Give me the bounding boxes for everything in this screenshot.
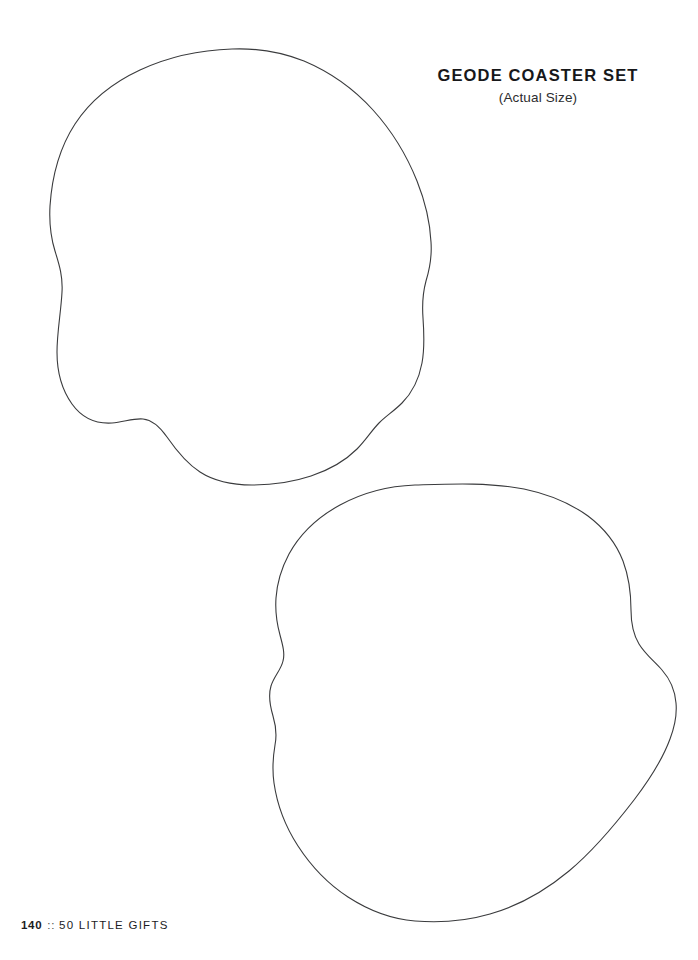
geode-coaster-outline-top bbox=[50, 49, 432, 485]
template-page: GEODE COASTER SET (Actual Size) 140 :: 5… bbox=[0, 0, 698, 960]
page-subtitle: (Actual Size) bbox=[398, 90, 678, 106]
footer-book-title: 50 LITTLE GIFTS bbox=[59, 919, 169, 931]
heading-block: GEODE COASTER SET (Actual Size) bbox=[398, 66, 678, 106]
coaster-template-illustration bbox=[0, 0, 698, 960]
page-title: GEODE COASTER SET bbox=[398, 66, 678, 86]
footer-separator: :: bbox=[42, 919, 59, 931]
page-footer: 140 :: 50 LITTLE GIFTS bbox=[21, 919, 169, 931]
footer-page-number: 140 bbox=[21, 919, 42, 931]
geode-coaster-outline-bottom bbox=[270, 484, 677, 922]
